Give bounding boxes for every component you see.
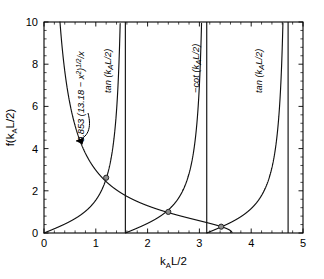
label-tan-right: tan (kAL/2) — [254, 49, 266, 93]
y-axis-title: f(kAL/2) — [4, 108, 19, 146]
chart-svg: 0123450246810kAL/2f(kAL/2)0.853 (13.18 −… — [0, 0, 324, 279]
x-tick-label: 4 — [248, 237, 254, 249]
x-tick-label: 0 — [41, 237, 47, 249]
y-tick-label: 2 — [32, 185, 38, 197]
y-tick-label: 8 — [32, 58, 38, 70]
x-tick-label: 5 — [300, 237, 306, 249]
intersection-marker-3 — [219, 224, 224, 229]
intersection-marker-2 — [166, 209, 171, 214]
x-tick-label: 1 — [93, 237, 99, 249]
y-tick-label: 6 — [32, 100, 38, 112]
x-axis-title: kAL/2 — [160, 255, 187, 270]
figure-container: 0123450246810kAL/2f(kAL/2)0.853 (13.18 −… — [0, 0, 324, 279]
x-tick-label: 3 — [196, 237, 202, 249]
label-circle-function: 0.853 (13.18 − x2)1/2/x — [75, 51, 86, 142]
y-tick-label: 4 — [32, 143, 38, 155]
label-tan-left: tan (kAL/2) — [103, 49, 115, 93]
y-tick-label: 0 — [32, 227, 38, 239]
intersection-marker-1 — [104, 175, 109, 180]
label-neg-cot: −cot (kAL/2) — [191, 44, 203, 93]
curve-tan-branch-2 — [207, 23, 283, 233]
y-tick-label: 10 — [26, 16, 38, 28]
x-tick-label: 2 — [145, 237, 151, 249]
